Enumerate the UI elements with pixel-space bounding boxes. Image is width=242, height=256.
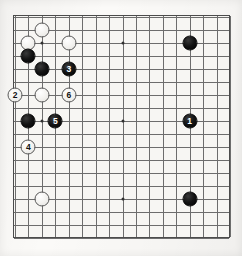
stone-move-number: 1 — [183, 115, 196, 128]
grid-line-vertical — [176, 16, 177, 237]
grid-line-vertical — [136, 16, 137, 237]
grid-line-vertical — [163, 16, 164, 237]
grid-line-vertical — [82, 16, 83, 237]
stone-move-number: 6 — [62, 89, 75, 102]
grid-line-horizontal — [14, 212, 229, 213]
go-diagram-screenshot: 326541 — [0, 0, 242, 256]
stone-move-number: 3 — [62, 63, 75, 76]
stone-white[interactable] — [34, 192, 49, 207]
grid-line-vertical — [15, 16, 16, 237]
stone-white-move-6[interactable]: 6 — [61, 88, 76, 103]
grid-line-horizontal — [14, 147, 229, 148]
grid-line-vertical — [230, 16, 231, 237]
stone-move-number: 2 — [9, 89, 22, 102]
grid-line-vertical — [96, 16, 97, 237]
go-board[interactable]: 326541 — [13, 15, 230, 238]
stone-black[interactable] — [21, 49, 36, 64]
stone-black[interactable] — [182, 192, 197, 207]
stone-black-move-1[interactable]: 1 — [182, 114, 197, 129]
stone-white[interactable] — [34, 88, 49, 103]
star-point — [40, 120, 43, 123]
star-point — [40, 42, 43, 45]
star-point — [121, 42, 124, 45]
grid-line-horizontal — [14, 82, 229, 83]
grid-line-horizontal — [14, 173, 229, 174]
grid-line-horizontal — [14, 108, 229, 109]
grid-line-vertical — [217, 16, 218, 237]
stone-white-move-2[interactable]: 2 — [8, 88, 23, 103]
stone-black[interactable] — [21, 114, 36, 129]
grid-line-horizontal — [14, 238, 229, 239]
stone-white[interactable] — [61, 36, 76, 51]
grid-line-vertical — [109, 16, 110, 237]
grid-line-vertical — [123, 16, 124, 237]
stone-black[interactable] — [34, 62, 49, 77]
stone-white-move-4[interactable]: 4 — [21, 140, 36, 155]
star-point — [121, 198, 124, 201]
grid-line-vertical — [149, 16, 150, 237]
grid-line-horizontal — [14, 17, 229, 18]
stone-black-move-3[interactable]: 3 — [61, 62, 76, 77]
star-point — [121, 120, 124, 123]
stone-white[interactable] — [34, 23, 49, 38]
grid-line-horizontal — [14, 160, 229, 161]
stone-black[interactable] — [182, 36, 197, 51]
grid-line-horizontal — [14, 225, 229, 226]
grid-line-vertical — [203, 16, 204, 237]
grid-line-horizontal — [14, 56, 229, 57]
grid-line-horizontal — [14, 186, 229, 187]
grid-line-horizontal — [14, 134, 229, 135]
stone-move-number: 4 — [22, 141, 35, 154]
stone-black-move-5[interactable]: 5 — [48, 114, 63, 129]
stone-move-number: 5 — [49, 115, 62, 128]
